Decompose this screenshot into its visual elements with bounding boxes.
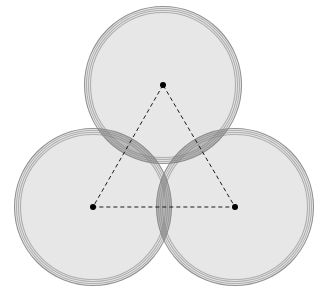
center-dot-left-center xyxy=(90,204,96,210)
circles-diagram-svg xyxy=(0,0,320,290)
center-dot-top-center xyxy=(160,82,166,88)
figure-root xyxy=(0,0,320,290)
center-dot-right-center xyxy=(232,204,238,210)
